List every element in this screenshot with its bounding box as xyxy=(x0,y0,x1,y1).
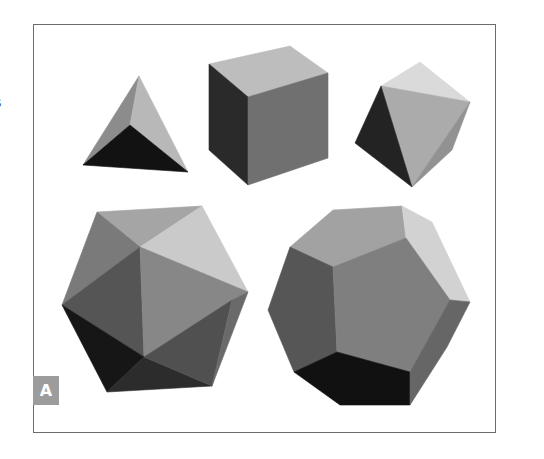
panel-label: A xyxy=(33,376,59,405)
platonic-solids-illustration xyxy=(0,0,544,459)
dodecahedron-face xyxy=(268,247,337,372)
octahedron xyxy=(355,62,470,187)
tetrahedron xyxy=(83,76,188,172)
cube xyxy=(209,46,328,185)
dodecahedron xyxy=(268,206,470,405)
icosahedron xyxy=(62,206,248,392)
